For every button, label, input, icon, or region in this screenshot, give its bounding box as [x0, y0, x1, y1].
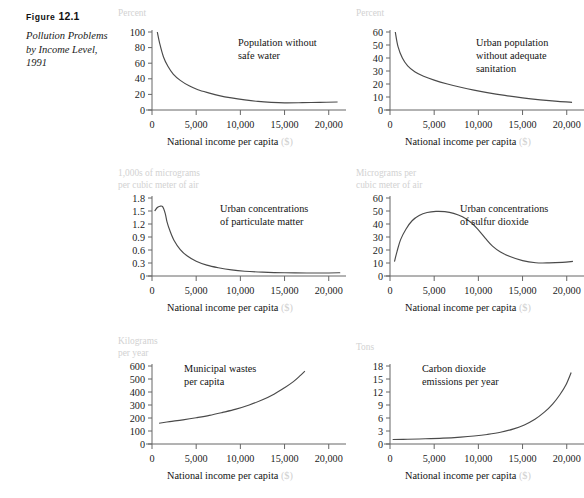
chart-carbon-dioxide: Tons036912151805,00010,00015,00020,000Ca…	[350, 336, 584, 498]
y-tick-label: 0	[140, 105, 145, 116]
y-tick-label: 200	[130, 413, 145, 424]
y-tick-label: 60	[373, 193, 383, 204]
y-tick-label: 0	[140, 439, 145, 450]
y-tick-label: 20	[373, 79, 383, 90]
x-tick-label: 10,000	[226, 119, 254, 130]
x-tick-label: 0	[387, 285, 392, 296]
x-tick-label: 15,000	[509, 453, 537, 464]
y-tick-label: 9	[378, 400, 383, 411]
x-tick-label: 20,000	[553, 119, 581, 130]
x-tick-label: 10,000	[464, 285, 492, 296]
x-axis-title-text: National income per capita	[405, 470, 516, 481]
y-tick-label: 6	[378, 413, 383, 424]
x-tick-label: 20,000	[315, 453, 343, 464]
y-tick-label: 500	[130, 374, 145, 385]
y-tick-label: 12	[373, 387, 383, 398]
y-tick-label: 1.2	[132, 219, 145, 230]
chart-annotation-carbon-dioxide: Carbon dioxide emissions per year	[422, 362, 499, 388]
y-tick-label: 3	[378, 426, 383, 437]
y-tick-label: 10	[373, 92, 383, 103]
x-tick-label: 5,000	[423, 119, 446, 130]
figure-title: Pollution Problems by Income Level, 1991	[26, 29, 118, 70]
y-tick-label: 0	[378, 439, 383, 450]
y-tick-label: 18	[373, 361, 383, 372]
x-axis-unit: ($)	[516, 136, 531, 147]
chart-particulate-matter: 1,000s of micrograms per cubic meter of …	[112, 168, 348, 334]
chart-safe-water: Percent02040608010005,00010,00015,00020,…	[112, 2, 348, 168]
x-tick-label: 5,000	[185, 119, 208, 130]
x-tick-label: 15,000	[271, 453, 299, 464]
figure-label: Figure 12.1	[26, 10, 118, 22]
chart-annotation-sulfur-dioxide: Urban concentrations of sulfur dioxide	[460, 202, 548, 228]
x-tick-label: 0	[149, 453, 154, 464]
x-axis-title: National income per capita ($)	[350, 470, 584, 481]
x-axis-title-text: National income per capita	[167, 302, 278, 313]
x-tick-label: 5,000	[185, 453, 208, 464]
x-tick-label: 5,000	[185, 285, 208, 296]
x-axis-title: National income per capita ($)	[112, 470, 348, 481]
chart-annotation-urban-sanitation: Urban population without adequate sanita…	[476, 36, 548, 75]
x-axis-title: National income per capita ($)	[350, 302, 584, 313]
x-tick-label: 0	[149, 119, 154, 130]
x-axis-unit: ($)	[278, 470, 293, 481]
x-tick-label: 5,000	[423, 453, 446, 464]
y-tick-label: 0	[378, 105, 383, 116]
figure-word: Figure	[26, 12, 55, 22]
chart-annotation-municipal-wastes: Municipal wastes per capita	[184, 362, 256, 388]
x-axis-title: National income per capita ($)	[112, 136, 348, 147]
y-tick-label: 40	[373, 219, 383, 230]
x-tick-label: 15,000	[271, 285, 299, 296]
y-tick-label: 60	[135, 58, 145, 69]
x-tick-label: 0	[387, 119, 392, 130]
y-tick-label: 15	[373, 374, 383, 385]
y-tick-label: 1.8	[132, 193, 145, 204]
y-tick-label: 30	[373, 66, 383, 77]
x-axis-unit: ($)	[278, 302, 293, 313]
y-tick-label: 400	[130, 387, 145, 398]
y-tick-label: 0	[140, 271, 145, 282]
x-axis-title-text: National income per capita	[405, 302, 516, 313]
figure-number: 12.1	[58, 10, 79, 22]
y-tick-label: 20	[135, 89, 145, 100]
y-tick-label: 10	[373, 258, 383, 269]
x-tick-label: 10,000	[226, 285, 254, 296]
x-tick-label: 0	[387, 453, 392, 464]
y-tick-label: 1.5	[132, 206, 145, 217]
y-tick-label: 600	[130, 361, 145, 372]
y-tick-label: 0.3	[132, 258, 145, 269]
x-tick-label: 20,000	[553, 453, 581, 464]
x-tick-label: 5,000	[423, 285, 446, 296]
x-axis-unit: ($)	[516, 470, 531, 481]
x-axis-title: National income per capita ($)	[112, 302, 348, 313]
x-tick-label: 10,000	[464, 119, 492, 130]
y-tick-label: 0.9	[132, 232, 145, 243]
x-tick-label: 10,000	[226, 453, 254, 464]
x-axis-unit: ($)	[516, 302, 531, 313]
chart-municipal-wastes: Kilograms per year010020030040050060005,…	[112, 336, 348, 498]
y-tick-label: 50	[373, 40, 383, 51]
y-tick-label: 100	[130, 426, 145, 437]
chart-annotation-particulate-matter: Urban concentrations of particulate matt…	[220, 202, 308, 228]
chart-annotation-safe-water: Population without safe water	[238, 36, 317, 62]
x-axis-title: National income per capita ($)	[350, 136, 584, 147]
x-axis-title-text: National income per capita	[167, 470, 278, 481]
chart-urban-sanitation: Percent010203040506005,00010,00015,00020…	[350, 2, 584, 168]
x-tick-label: 20,000	[315, 119, 343, 130]
y-tick-label: 40	[373, 53, 383, 64]
chart-sulfur-dioxide: Micrograms per cubic meter of air0102030…	[350, 168, 584, 334]
x-tick-label: 15,000	[509, 285, 537, 296]
y-tick-label: 80	[135, 42, 145, 53]
x-tick-label: 20,000	[315, 285, 343, 296]
x-tick-label: 15,000	[271, 119, 299, 130]
x-tick-label: 0	[149, 285, 154, 296]
figure-caption-block: Figure 12.1 Pollution Problems by Income…	[26, 10, 118, 70]
y-tick-label: 0.6	[132, 245, 145, 256]
y-tick-label: 40	[135, 73, 145, 84]
x-axis-title-text: National income per capita	[167, 136, 278, 147]
y-tick-label: 20	[373, 245, 383, 256]
y-tick-label: 60	[373, 27, 383, 38]
y-tick-label: 100	[130, 27, 145, 38]
y-tick-label: 30	[373, 232, 383, 243]
x-axis-title-text: National income per capita	[405, 136, 516, 147]
y-tick-label: 300	[130, 400, 145, 411]
